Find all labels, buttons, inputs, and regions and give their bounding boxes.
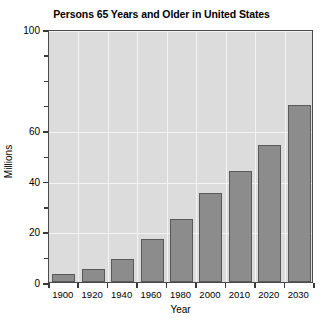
x-axis-tick [77,283,79,288]
y-axis-tick [43,131,48,133]
chart-figure: Persons 65 Years and Older in United Sta… [0,0,323,325]
x-axis-label-1940: 1940 [111,289,132,300]
bar-1920 [82,269,105,282]
x-axis-label-2000: 2000 [199,289,220,300]
x-axis-label-2010: 2010 [229,289,250,300]
y-axis-tick [44,157,48,159]
y-axis-tick [44,81,48,83]
x-axis-tick [136,283,138,288]
x-axis-tick [195,283,197,288]
chart-title: Persons 65 Years and Older in United Sta… [0,8,323,20]
y-axis: Millions 0204060100 [0,30,48,283]
bar-2000 [199,193,222,282]
x-axis-tick [166,283,168,288]
y-axis-tick [44,258,48,260]
y-axis-tick [44,55,48,57]
x-axis-tick [313,283,315,288]
y-axis-label: 20 [29,227,40,238]
y-axis-label: 0 [34,278,40,289]
y-axis-tick [44,207,48,209]
y-axis-tick [43,182,48,184]
x-axis-tick [284,283,286,288]
bar-2020 [258,145,281,282]
x-axis-tick [48,283,50,288]
bar-2030 [288,105,311,282]
x-axis-label-2020: 2020 [258,289,279,300]
x-axis-tick [254,283,256,288]
y-axis-label: 100 [23,25,40,36]
y-axis-label: 40 [29,176,40,187]
x-axis-tick [225,283,227,288]
y-axis-tick [43,232,48,234]
x-axis-label-1980: 1980 [170,289,191,300]
y-axis-tick [44,106,48,108]
y-axis-title: Millions [3,132,14,192]
y-axis-label: 60 [29,126,40,137]
bar-series [49,31,312,282]
bar-2010 [229,171,252,282]
plot-area [48,30,313,283]
x-axis-label-2030: 2030 [288,289,309,300]
x-axis: Year 19001920194019601980200020102020203… [48,283,313,325]
x-axis-tick [107,283,109,288]
x-axis-label-1960: 1960 [140,289,161,300]
bar-1980 [170,219,193,282]
x-axis-title: Year [48,304,313,315]
bar-1960 [141,239,164,282]
y-axis-tick [43,30,48,32]
bar-1900 [52,274,75,282]
x-axis-label-1920: 1920 [82,289,103,300]
bar-1940 [111,259,134,282]
x-axis-label-1900: 1900 [52,289,73,300]
